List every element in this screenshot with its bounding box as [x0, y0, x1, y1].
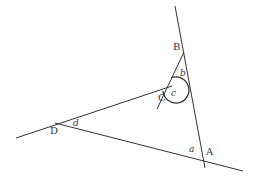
angle-label-a: a: [189, 144, 194, 154]
geometry-diagram: B C D A b c d a: [0, 0, 253, 177]
line-d-a: [55, 123, 243, 171]
point-label-c: C: [158, 92, 166, 103]
angle-label-b: b: [180, 68, 186, 78]
point-label-a: A: [205, 146, 214, 157]
angle-label-d: d: [73, 118, 79, 128]
angle-label-c: c: [171, 88, 176, 98]
line-c-d: [16, 86, 172, 138]
point-label-b: B: [173, 41, 180, 52]
point-label-d: D: [50, 125, 58, 136]
